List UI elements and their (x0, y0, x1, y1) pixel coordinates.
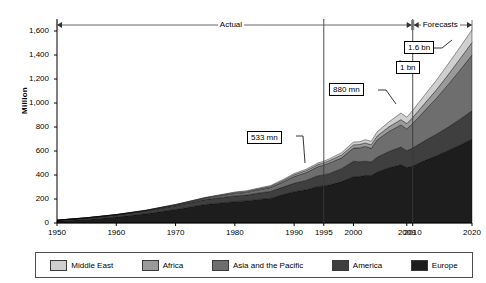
legend-item-asia-and-the-pacific[interactable]: Asia and the Pacific (212, 260, 303, 271)
leader-880mn (378, 90, 396, 104)
legend-swatch-icon (50, 260, 67, 271)
legend-swatch-icon (212, 260, 229, 271)
legend-label: Europe (432, 261, 458, 270)
chart-legend: Middle EastAfricaAsia and the PacificAme… (35, 252, 473, 278)
legend-item-middle-east[interactable]: Middle East (50, 260, 113, 271)
period-label-actual: Actual (218, 20, 244, 29)
legend-label: Middle East (71, 261, 113, 270)
leader-533mn (296, 136, 305, 163)
legend-label: America (353, 261, 382, 270)
legend-swatch-icon (411, 260, 428, 271)
legend-swatch-icon (332, 260, 349, 271)
legend-item-europe[interactable]: Europe (411, 260, 458, 271)
legend-label: Asia and the Pacific (233, 261, 303, 270)
callout-1-6bn: 1.6 bn (404, 41, 434, 54)
leader-1-6bn (434, 40, 452, 48)
callout-880mn: 880 mn (329, 83, 364, 96)
legend-item-america[interactable]: America (332, 260, 382, 271)
callout-533mn: 533 mn (247, 131, 282, 144)
legend-swatch-icon (142, 260, 159, 271)
legend-item-africa[interactable]: Africa (142, 260, 183, 271)
period-label-forecasts: Forecasts (421, 20, 460, 29)
callout-1bn: 1 bn (396, 61, 420, 74)
legend-label: Africa (163, 261, 183, 270)
